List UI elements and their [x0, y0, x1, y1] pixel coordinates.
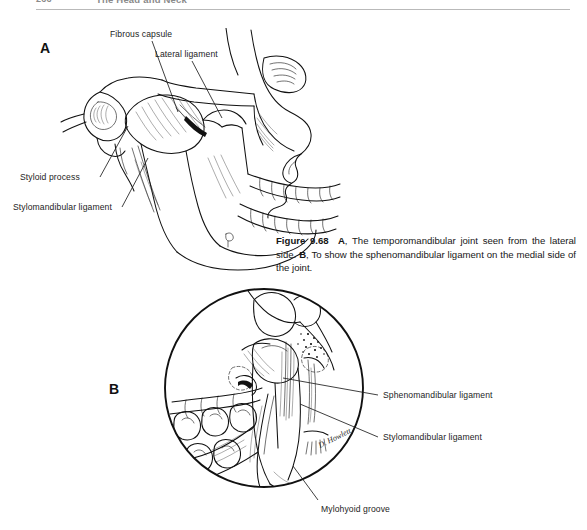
label-fibrous-capsule: Fibrous capsule — [110, 30, 172, 39]
label-lateral-ligament: Lateral ligament — [155, 50, 218, 59]
textbook-page: 266 The Head and Neck — [0, 0, 587, 530]
chapter-title: The Head and Neck — [96, 0, 187, 5]
panel-b-illustration: D. Howlett — [158, 282, 370, 498]
caption-text-b: , To show the sphenomandibular ligament … — [276, 249, 576, 274]
label-sphenomandibular-ligament: Sphenomandibular ligament — [383, 391, 493, 400]
caption-marker-a: A — [338, 235, 345, 246]
label-stylomandibular-ligament-b: Stylomandibular ligament — [383, 433, 482, 442]
figure-number: Figure 9.68 — [276, 235, 329, 246]
page-number: 266 — [36, 0, 52, 4]
label-mylohyoid-groove: Mylohyoid groove — [321, 505, 390, 514]
panel-label-b: B — [109, 381, 119, 397]
running-head: 266 The Head and Neck — [0, 0, 587, 6]
header-rule — [36, 9, 570, 10]
figure-caption: Figure 9.68 A, The temporomandibular joi… — [276, 234, 576, 275]
panel-label-a: A — [40, 40, 50, 56]
label-styloid-process: Styloid process — [20, 173, 80, 182]
label-stylomandibular-ligament: Stylomandibular ligament — [13, 203, 112, 212]
